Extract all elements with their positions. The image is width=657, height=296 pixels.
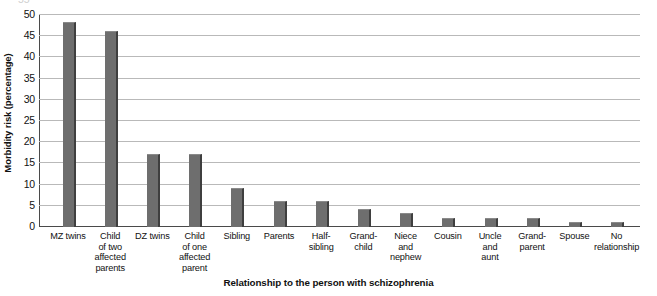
bar [63, 22, 76, 227]
y-tick-label-30: 30 [1, 94, 35, 104]
cat-label-line: Half- [312, 231, 331, 241]
y-tick-label-15: 15 [1, 157, 35, 167]
bar [400, 213, 413, 227]
bar [189, 154, 202, 227]
bar [231, 188, 244, 227]
bar [274, 201, 287, 227]
gridline-45 [39, 35, 640, 36]
gridline-30 [39, 99, 640, 100]
bar [147, 154, 160, 227]
y-tick-label-0: 0 [1, 221, 35, 231]
cat-label-line: Uncle [479, 231, 502, 241]
cat-label-line: DZ twins [135, 231, 170, 241]
gridline-35 [39, 78, 640, 79]
y-tick-label-5: 5 [1, 200, 35, 210]
bar [569, 222, 582, 227]
cat-label-line: Cousin [434, 231, 462, 241]
gridline-40 [39, 56, 640, 57]
cat-label-line: child [354, 242, 372, 252]
cat-label-line: sibling [309, 242, 334, 252]
cat-label-line: and [398, 242, 413, 252]
cat-label-line: Spouse [559, 231, 589, 241]
gridline-10 [39, 184, 640, 185]
cat-label-line: No [611, 231, 622, 241]
gridline-5 [39, 205, 640, 206]
x-axis-label-13: Norelationship [591, 231, 643, 252]
y-tick-label-35: 35 [1, 73, 35, 83]
bar [442, 218, 455, 227]
y-tick-label-25: 25 [1, 115, 35, 125]
bar [316, 201, 329, 227]
cat-label-line: parents [95, 263, 125, 273]
cat-label-line: of one [182, 242, 207, 252]
cat-label-line: Child [185, 231, 205, 241]
y-tick-label-40: 40 [1, 51, 35, 61]
gridline-25 [39, 120, 640, 121]
cat-label-line: relationship [594, 242, 639, 252]
cat-label-line: nephew [390, 252, 421, 262]
y-tick-label-45: 45 [1, 30, 35, 40]
bar [358, 209, 371, 227]
cat-label-line: parent [182, 263, 207, 273]
cat-label-line: of two [98, 242, 122, 252]
y-tick-label-20: 20 [1, 136, 35, 146]
cat-label-line: Sibling [224, 231, 251, 241]
cat-label-line: Grand- [350, 231, 378, 241]
gridline-15 [39, 162, 640, 163]
bar [485, 218, 498, 227]
cat-label-line: and [483, 242, 498, 252]
plot-area [39, 14, 640, 226]
cat-label-line: MZ twins [50, 231, 86, 241]
y-tick-label-50: 50 [1, 9, 35, 19]
bar [611, 222, 624, 227]
gridline-50 [39, 14, 640, 15]
y-tick-label-10: 10 [1, 179, 35, 189]
bar [527, 218, 540, 227]
cat-label-line: affected [95, 252, 126, 262]
cat-label-line: parent [520, 242, 545, 252]
cat-label-line: Grand- [518, 231, 546, 241]
x-axis-title: Relationship to the person with schizoph… [0, 277, 657, 288]
cat-label-line: Niece [394, 231, 417, 241]
morbidity-risk-bar-chart: Morbidity risk (percentage) 55 051015202… [0, 0, 657, 296]
gridline-0 [39, 226, 640, 227]
cat-label-line: Parents [264, 231, 295, 241]
y-axis-tick-labels: 05101520253035404550 [0, 0, 35, 296]
bar [105, 31, 118, 227]
cat-label-line: aunt [481, 252, 498, 262]
cat-label-line: affected [179, 252, 210, 262]
cat-label-line: Child [100, 231, 120, 241]
gridline-20 [39, 141, 640, 142]
